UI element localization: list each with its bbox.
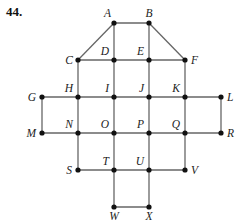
vertex-U [146,167,151,172]
vertex-label-S: S [66,164,72,176]
vertex-S [75,167,80,172]
vertex-label-J: J [139,82,145,94]
vertex-K [182,94,187,99]
vertex-H [75,94,80,99]
vertex-G [39,94,44,99]
vertex-label-U: U [136,155,145,167]
graph-diagram: ABCDEFGHIJKLMNOPQRSTUVWX [0,0,239,223]
vertex-label-B: B [145,7,152,19]
vertex-label-C: C [65,54,73,66]
vertex-label-H: H [64,82,74,94]
vertex-label-Q: Q [172,118,181,130]
vertex-label-A: A [103,7,112,19]
vertex-X [146,204,151,209]
vertex-label-X: X [144,210,153,222]
vertex-M [39,130,44,135]
vertex-I [111,94,116,99]
vertex-label-T: T [103,155,111,167]
vertex-E [146,57,151,62]
vertex-label-D: D [100,45,110,57]
vertex-B [146,20,151,25]
vertex-Q [182,130,187,135]
vertex-C [75,57,80,62]
graph-edges [42,23,221,207]
vertex-label-I: I [104,82,110,94]
vertex-label-O: O [101,118,110,130]
vertex-label-E: E [136,45,144,57]
vertex-L [218,94,223,99]
vertex-P [146,130,151,135]
vertex-T [111,167,116,172]
vertex-R [218,130,223,135]
vertex-V [182,167,187,172]
vertex-label-W: W [109,210,120,222]
vertex-label-P: P [136,118,144,130]
vertex-A [111,20,116,25]
vertex-O [111,130,116,135]
vertex-label-R: R [226,127,234,139]
vertex-F [182,57,187,62]
vertex-N [75,130,80,135]
vertex-J [146,94,151,99]
vertex-label-K: K [171,82,181,94]
vertex-label-N: N [64,118,74,130]
vertex-label-G: G [28,91,37,103]
vertex-label-V: V [191,164,200,176]
vertex-label-F: F [190,54,199,66]
vertex-label-L: L [226,91,233,103]
vertex-D [111,57,116,62]
vertex-labels: ABCDEFGHIJKLMNOPQRSTUVWX [25,7,234,222]
edge-B-F [149,23,185,60]
graph-vertices [39,20,223,209]
vertex-label-M: M [25,127,37,139]
vertex-W [111,204,116,209]
